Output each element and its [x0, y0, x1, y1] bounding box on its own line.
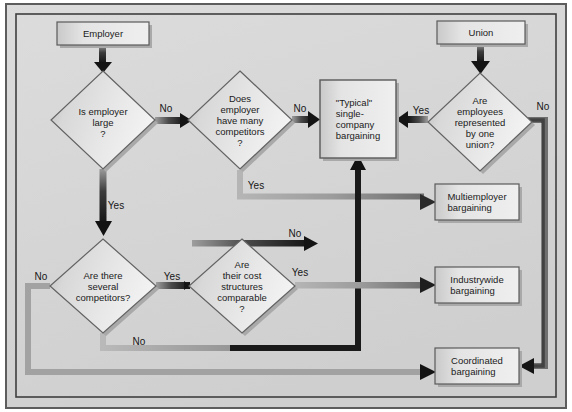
node-multiemployer[interactable]: [435, 184, 522, 223]
node-typical-single-company[interactable]: [320, 80, 399, 161]
node-employer[interactable]: [57, 22, 152, 48]
edge-several-competitors-yes: [156, 281, 190, 290]
node-industrywide[interactable]: [435, 267, 522, 306]
flowchart-canvas: Does employer have many competitors --> …: [0, 0, 572, 412]
flowchart-diagram: Does employer have many competitors --> …: [0, 0, 572, 412]
node-union[interactable]: [437, 21, 528, 47]
node-coordinated[interactable]: [435, 348, 522, 387]
